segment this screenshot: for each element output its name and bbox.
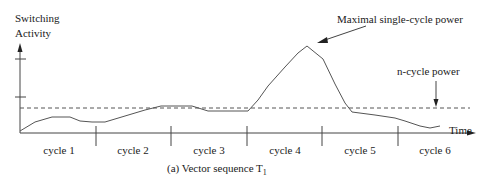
caption-text: (a) Vector sequence T bbox=[167, 162, 263, 174]
figure-caption: (a) Vector sequence T1 bbox=[167, 163, 267, 177]
cycle-label-6: cycle 6 bbox=[419, 144, 450, 156]
cycle-label-1: cycle 1 bbox=[43, 144, 74, 156]
x-axis-label: Time bbox=[449, 125, 472, 136]
peak-arrowhead-icon bbox=[317, 37, 328, 43]
cycle-label-4: cycle 4 bbox=[269, 144, 300, 156]
peak-annotation-label: Maximal single-cycle power bbox=[337, 14, 463, 25]
cycle-label-5: cycle 5 bbox=[344, 144, 375, 156]
avg-arrowhead-icon bbox=[434, 99, 439, 107]
caption-subscript: 1 bbox=[263, 168, 267, 177]
y-axis-label-line2: Activity bbox=[15, 28, 51, 39]
cycle-label-2: cycle 2 bbox=[117, 144, 148, 156]
switching-activity-figure: Switching Activity Maximal single-cycle … bbox=[0, 0, 491, 185]
peak-annotation-arrow bbox=[322, 26, 366, 41]
avg-annotation-label: n-cycle power bbox=[397, 66, 460, 77]
chart-canvas bbox=[0, 0, 491, 185]
y-axis-arrowhead-icon bbox=[18, 43, 23, 52]
cycle-label-3: cycle 3 bbox=[193, 144, 224, 156]
switching-activity-curve bbox=[20, 46, 440, 131]
y-axis-label-line1: Switching bbox=[15, 13, 60, 24]
